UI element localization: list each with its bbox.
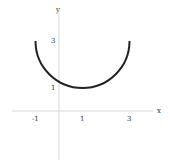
x-tick-label: 3 <box>127 115 131 123</box>
x-axis-label: x <box>157 107 161 115</box>
x-tick-label: 1 <box>80 115 84 123</box>
y-tick-label: 3 <box>51 37 55 45</box>
x-tick-label: -1 <box>32 115 39 123</box>
y-tick-label: 1 <box>51 84 55 92</box>
semicircle-curve <box>36 41 130 88</box>
plot-canvas: x y -1 1 3 3 1 <box>0 0 170 166</box>
y-axis-label: y <box>55 6 60 14</box>
